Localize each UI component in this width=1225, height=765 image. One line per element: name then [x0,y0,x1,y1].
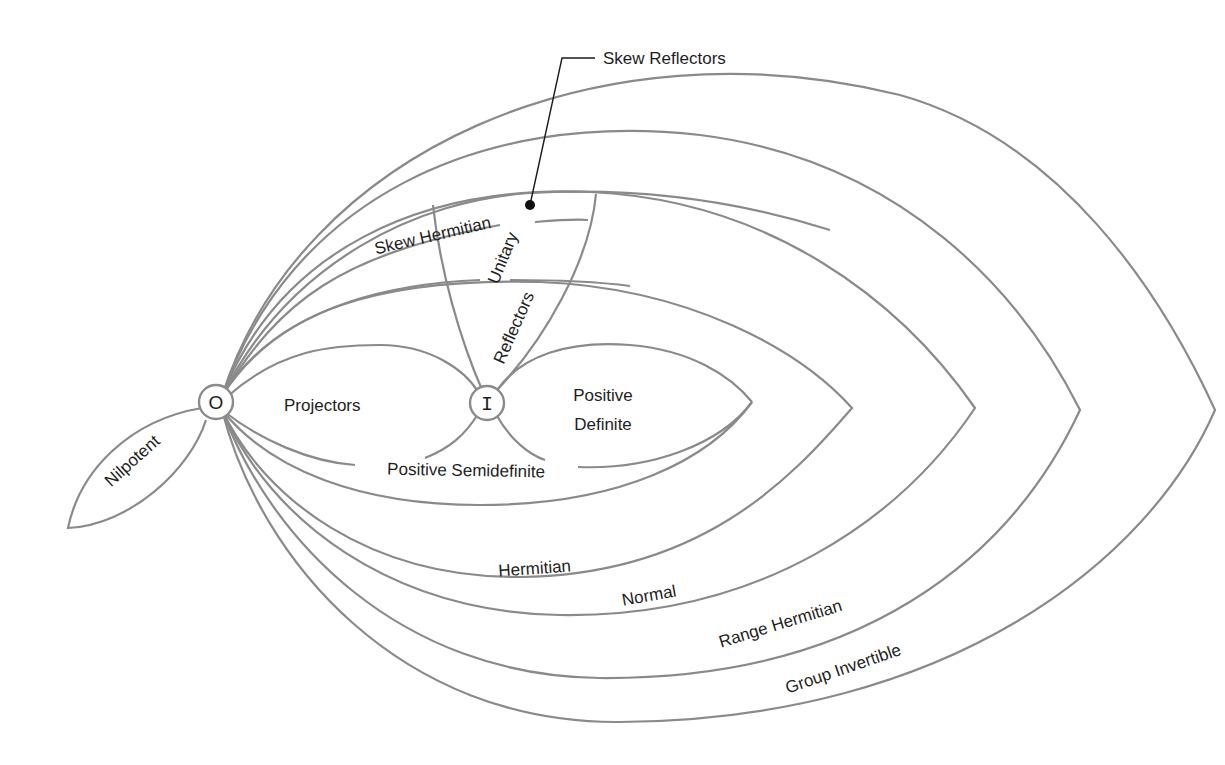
projectors-upper-boundary [228,345,478,396]
positive-definite-lower-boundary [496,414,545,460]
hermitian-label: Hermitian [498,556,572,580]
skew-hermitian-label: Skew Hermitian [373,213,493,258]
unitary-right-boundary [495,194,596,392]
skew-reflectors-label: Skew Reflectors [603,49,726,68]
positive-semidefinite-label: Positive Semidefinite [387,460,545,482]
reflectors-label: Reflectors [490,289,538,367]
projectors-label: Projectors [284,396,361,415]
skew-hermitian-inner-boundary-right [535,220,588,222]
group-invertible-label: Group Invertible [783,640,904,697]
positive-definite-label-line2: Definite [574,415,632,434]
positive-definite-label-line1: Positive [573,386,633,405]
projectors-lower-boundary [425,414,478,458]
group-invertible-boundary [222,74,1215,722]
positive-semidefinite-upper-right [578,402,752,467]
unitary-label: Unitary [484,229,522,287]
zero-matrix-label: O [209,392,224,413]
skew-reflectors-dot [525,200,535,210]
matrix-classes-diagram: Skew Reflectors O I Projectors Positive … [0,0,1225,765]
identity-matrix-label: I [481,393,493,416]
nilpotent-label: Nilpotent [101,431,164,490]
inner-arc-left [222,280,480,396]
